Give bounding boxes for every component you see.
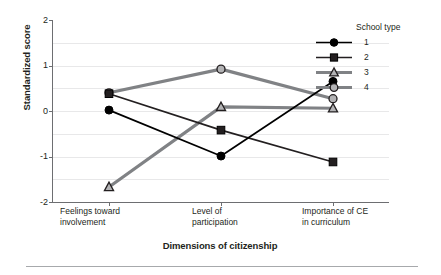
legend-marker-open-circle-icon bbox=[312, 80, 356, 95]
legend-item-4[interactable]: 4 bbox=[312, 80, 430, 95]
bottom-divider bbox=[26, 266, 418, 267]
figure-container: Standardized score 2 1 0 -1 -2 Feeling bbox=[0, 0, 441, 275]
data-point-2-1 bbox=[217, 126, 225, 134]
x-category-line: involvement bbox=[60, 217, 168, 228]
series-line-3 bbox=[109, 107, 333, 187]
legend-title: School type bbox=[356, 22, 430, 32]
x-category-line: Importance of CE bbox=[302, 206, 410, 217]
y-tick-label: 2 bbox=[32, 16, 48, 25]
data-point-1-1 bbox=[217, 152, 225, 160]
legend-item-3[interactable]: 3 bbox=[312, 65, 430, 80]
x-category-label-2: Importance of CE in curriculum bbox=[302, 206, 410, 228]
x-category-line: in curriculum bbox=[302, 217, 410, 228]
y-tick-label: -1 bbox=[32, 152, 48, 161]
legend-label: 2 bbox=[364, 52, 369, 62]
y-tick-label: 0 bbox=[32, 107, 48, 116]
y-tick-label: -2 bbox=[32, 198, 48, 207]
legend: School type 1 2 3 4 bbox=[312, 22, 430, 95]
x-category-label-1: Level of participation bbox=[192, 206, 300, 228]
legend-marker-open-triangle-icon bbox=[312, 65, 356, 80]
legend-label: 4 bbox=[364, 82, 369, 92]
legend-label: 3 bbox=[364, 67, 369, 77]
legend-item-2[interactable]: 2 bbox=[312, 50, 430, 65]
x-category-line: participation bbox=[192, 217, 300, 228]
data-point-2-2 bbox=[329, 158, 337, 166]
data-point-4-1 bbox=[217, 65, 225, 73]
x-category-label-0: Feelings toward involvement bbox=[60, 206, 168, 228]
legend-label: 1 bbox=[364, 37, 369, 47]
data-point-4-2 bbox=[329, 95, 337, 103]
y-axis-tick bbox=[49, 202, 53, 203]
series-line-1 bbox=[109, 81, 333, 156]
legend-marker-filled-square-icon bbox=[312, 50, 356, 65]
legend-item-1[interactable]: 1 bbox=[312, 35, 430, 50]
data-point-2-0 bbox=[105, 90, 113, 98]
y-tick-label: 1 bbox=[32, 61, 48, 70]
x-category-line: Feelings toward bbox=[60, 206, 168, 217]
x-axis-title: Dimensions of citizenship bbox=[52, 240, 388, 251]
legend-marker-filled-circle-icon bbox=[312, 35, 356, 50]
x-category-line: Level of bbox=[192, 206, 300, 217]
x-category-label-group: Feelings toward involvement Level of par… bbox=[52, 206, 388, 238]
data-point-1-0 bbox=[105, 106, 113, 114]
y-tick-label-group: 2 1 0 -1 -2 bbox=[28, 0, 48, 275]
